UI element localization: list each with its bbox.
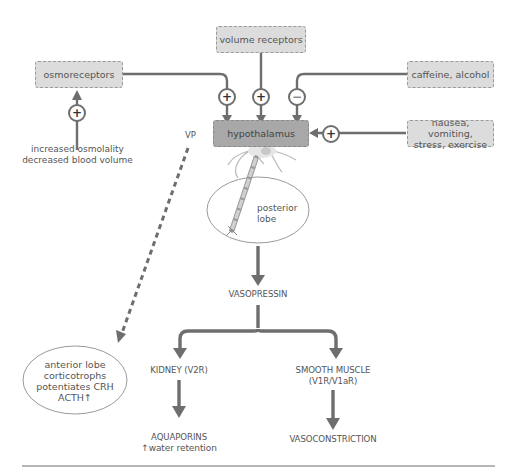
posterior-line2: lobe <box>257 214 297 225</box>
posterior-line1: posterior <box>257 203 297 214</box>
posterior-lobe-label: posterior lobe <box>257 203 297 225</box>
stimulus-label: increased osmolality decreased blood vol… <box>20 144 135 166</box>
nausea-box: nausea, vomiting, stress, exercise <box>407 120 494 147</box>
kidney-label: KIDNEY (V2R) <box>134 365 224 376</box>
plus-sign-icon-nausea: + <box>322 125 340 143</box>
stimulus-line2: decreased blood volume <box>20 155 135 166</box>
plus-sign-icon-volume: + <box>252 88 270 106</box>
anterior-line3: potentiates CRH <box>23 381 127 392</box>
volume-receptors-box: volume receptors <box>216 26 306 53</box>
anterior-line2: corticotrophs <box>23 370 127 381</box>
caffeine-alcohol-box: caffeine, alcohol <box>407 61 494 88</box>
anterior-lobe-label: anterior lobe corticotrophs potentiates … <box>23 359 127 403</box>
aquaporins-line1: AQUAPORINS <box>129 432 229 443</box>
anterior-line4: ACTH↑ <box>23 392 127 403</box>
vasopressin-label: VASOPRESSIN <box>208 289 308 300</box>
vasoconstriction-label: VASOCONSTRICTION <box>278 434 388 445</box>
plus-sign-icon-stimulus: + <box>68 104 86 122</box>
hypothalamus-box: hypothalamus <box>213 120 309 147</box>
smooth-muscle-label: SMOOTH MUSCLE (V1R/V1aR) <box>283 365 383 387</box>
anterior-line1: anterior lobe <box>23 359 127 370</box>
osmoreceptors-box: osmoreceptors <box>35 61 123 88</box>
vp-label: VP <box>185 130 196 141</box>
aquaporins-label: AQUAPORINS ↑water retention <box>129 432 229 454</box>
minus-sign-icon-caffeine: − <box>288 88 306 106</box>
plus-sign-icon-osmo: + <box>218 88 236 106</box>
aquaporins-line2: ↑water retention <box>129 443 229 454</box>
stimulus-line1: increased osmolality <box>20 144 135 155</box>
smooth-muscle-line1: SMOOTH MUSCLE <box>283 365 383 376</box>
smooth-muscle-line2: (V1R/V1aR) <box>283 376 383 387</box>
